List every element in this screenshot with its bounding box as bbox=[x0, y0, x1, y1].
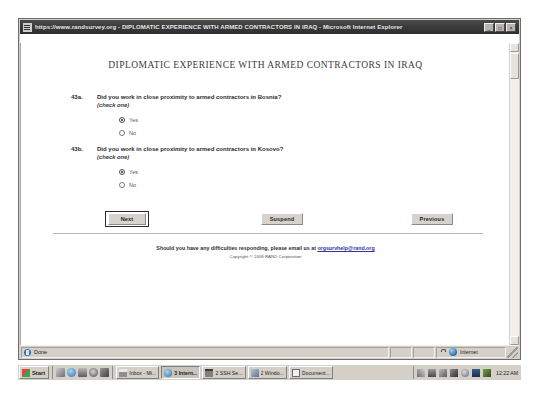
horizontal-divider bbox=[53, 233, 483, 234]
quick-launch-media-icon[interactable] bbox=[89, 368, 98, 377]
maximize-button[interactable]: □ bbox=[495, 23, 505, 32]
system-tray: 12:22 AM bbox=[413, 366, 520, 379]
taskbar-item-internet-explorer-label: 3 Intern... bbox=[174, 370, 197, 376]
security-zone-label: Internet bbox=[460, 349, 478, 355]
page-title: DIPLOMATIC EXPERIENCE WITH ARMED CONTRAC… bbox=[21, 60, 510, 70]
radio-option-43b-yes[interactable]: Yes bbox=[119, 167, 510, 177]
support-email-link[interactable]: orgsurvhelp@rand.org bbox=[317, 245, 374, 251]
question-43a: 43a. Did you work in close proximity to … bbox=[21, 93, 510, 141]
tray-printer-icon[interactable] bbox=[450, 369, 458, 377]
taskbar-window-buttons: Inbox - Mi... 3 Intern... 2 SSH Se... 2 … bbox=[116, 366, 413, 379]
status-panel-1 bbox=[390, 347, 412, 358]
start-button-label: Start bbox=[32, 370, 45, 376]
question-43b-options: Yes No bbox=[119, 167, 510, 190]
radio-button-43a-yes[interactable] bbox=[119, 117, 125, 123]
resize-grip[interactable] bbox=[507, 347, 518, 358]
radio-button-43b-no[interactable] bbox=[119, 182, 125, 188]
footer-message: Should you have any difficulties respond… bbox=[21, 245, 510, 252]
windows-flag-icon bbox=[22, 369, 30, 377]
windows-taskbar: Start Inbox - Mi... 3 Intern... 2 SSH Se… bbox=[18, 364, 521, 380]
quick-launch-show-desktop-icon[interactable] bbox=[56, 368, 65, 377]
browser-status-bar: Done Internet bbox=[20, 345, 519, 358]
radio-option-43a-yes[interactable]: Yes bbox=[119, 115, 510, 125]
system-clock[interactable]: 12:22 AM bbox=[496, 370, 518, 376]
radio-label-43a-no: No bbox=[129, 130, 136, 137]
question-43a-options: Yes No bbox=[119, 115, 510, 138]
scrollbar-thumb[interactable] bbox=[510, 53, 519, 79]
taskbar-item-internet-explorer[interactable]: 3 Intern... bbox=[161, 366, 200, 379]
scroll-up-arrow-icon[interactable] bbox=[510, 43, 519, 52]
document-icon bbox=[292, 369, 300, 377]
quick-launch-browser-icon[interactable] bbox=[67, 368, 76, 377]
window-title-bar[interactable]: https://www.randsurvey.org - DIPLOMATIC … bbox=[20, 20, 519, 34]
quick-launch-app-icon[interactable] bbox=[100, 368, 109, 377]
scanned-screenshot: https://www.randsurvey.org - DIPLOMATIC … bbox=[0, 0, 539, 397]
question-43b-instruction: (check one) bbox=[97, 153, 510, 162]
question-43b: 43b. Did you work in close proximity to … bbox=[21, 145, 510, 193]
question-43a-text: Did you work in close proximity to armed… bbox=[97, 93, 510, 101]
tray-security-icon[interactable] bbox=[472, 369, 480, 377]
mail-icon bbox=[119, 369, 127, 377]
footer-message-text: Should you have any difficulties respond… bbox=[156, 245, 317, 251]
tray-antivirus-icon[interactable] bbox=[483, 369, 491, 377]
taskbar-item-document[interactable]: Document... bbox=[289, 366, 333, 379]
taskbar-item-document-label: Document... bbox=[302, 370, 330, 376]
tray-volume-icon[interactable] bbox=[439, 369, 447, 377]
navigation-button-row: Next Suspend Previous bbox=[21, 213, 510, 229]
globe-icon bbox=[449, 348, 457, 356]
taskbar-item-inbox-label: Inbox - Mi... bbox=[129, 370, 156, 376]
question-43a-number: 43a. bbox=[71, 93, 97, 101]
taskbar-item-ssh[interactable]: 2 SSH Se... bbox=[202, 366, 245, 379]
start-button[interactable]: Start bbox=[19, 366, 49, 379]
radio-label-43b-no: No bbox=[129, 182, 136, 189]
security-zone-panel[interactable]: Internet bbox=[436, 347, 506, 358]
copyright-notice: Copyright © 2008 RAND Corporation bbox=[21, 253, 510, 260]
scroll-down-arrow-icon[interactable] bbox=[510, 336, 519, 345]
page-done-icon bbox=[24, 349, 31, 356]
window-controls: _ □ × bbox=[484, 23, 516, 32]
question-43b-text: Did you work in close proximity to armed… bbox=[97, 145, 510, 153]
tray-network-icon[interactable] bbox=[428, 369, 436, 377]
minimize-button[interactable]: _ bbox=[484, 23, 494, 32]
suspend-button[interactable]: Suspend bbox=[261, 213, 303, 225]
radio-option-43a-no[interactable]: No bbox=[119, 128, 510, 138]
radio-label-43b-yes: Yes bbox=[129, 169, 138, 176]
taskbar-item-ssh-label: 2 SSH Se... bbox=[215, 370, 242, 376]
lock-icon bbox=[440, 349, 447, 356]
radio-option-43b-no[interactable]: No bbox=[119, 180, 510, 190]
taskbar-item-windows-label: 2 Windo... bbox=[261, 370, 284, 376]
question-43a-instruction: (check one) bbox=[97, 101, 510, 110]
vertical-scrollbar[interactable] bbox=[509, 43, 519, 345]
tray-update-icon[interactable] bbox=[461, 369, 469, 377]
internet-explorer-icon bbox=[23, 23, 32, 32]
tray-pen-icon[interactable] bbox=[417, 369, 425, 377]
quick-launch-bar bbox=[52, 366, 113, 379]
close-button[interactable]: × bbox=[506, 23, 516, 32]
radio-button-43b-yes[interactable] bbox=[119, 169, 125, 175]
taskbar-item-inbox[interactable]: Inbox - Mi... bbox=[116, 366, 159, 379]
status-panel-2 bbox=[413, 347, 435, 358]
internet-explorer-icon bbox=[164, 369, 172, 377]
previous-button[interactable]: Previous bbox=[411, 213, 453, 225]
survey-form: DIPLOMATIC EXPERIENCE WITH ARMED CONTRAC… bbox=[21, 43, 510, 345]
status-message-panel: Done bbox=[21, 347, 389, 358]
radio-label-43a-yes: Yes bbox=[129, 117, 138, 124]
quick-launch-mail-icon[interactable] bbox=[78, 368, 87, 377]
radio-button-43a-no[interactable] bbox=[119, 130, 125, 136]
footer: Should you have any difficulties respond… bbox=[21, 245, 510, 260]
ssh-terminal-icon bbox=[205, 369, 213, 377]
status-text: Done bbox=[34, 349, 47, 355]
next-button[interactable]: Next bbox=[108, 213, 146, 225]
question-43b-number: 43b. bbox=[71, 145, 97, 153]
taskbar-item-windows[interactable]: 2 Windo... bbox=[248, 366, 287, 379]
window-title: https://www.randsurvey.org - DIPLOMATIC … bbox=[35, 24, 484, 30]
explorer-window-icon bbox=[251, 369, 259, 377]
browser-window: https://www.randsurvey.org - DIPLOMATIC … bbox=[18, 18, 521, 360]
browser-page-canvas: DIPLOMATIC EXPERIENCE WITH ARMED CONTRAC… bbox=[20, 43, 519, 345]
